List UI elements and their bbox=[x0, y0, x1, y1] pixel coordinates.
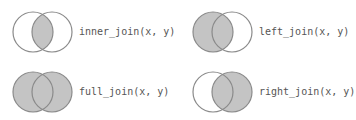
left-join-label: left_join(x, y) bbox=[259, 26, 349, 38]
full-join-diagram: full_join(x, y) bbox=[0, 60, 178, 120]
inner-join-label: inner_join(x, y) bbox=[79, 26, 175, 38]
right-join-label: right_join(x, y) bbox=[259, 86, 355, 98]
venn-full-icon bbox=[0, 60, 80, 120]
venn-right-icon bbox=[178, 60, 258, 120]
right-join-diagram: right_join(x, y) bbox=[178, 60, 356, 120]
left-join-diagram: left_join(x, y) bbox=[178, 0, 356, 60]
inner-join-diagram: inner_join(x, y) bbox=[0, 0, 178, 60]
venn-left-icon bbox=[178, 0, 258, 60]
venn-intersection-icon bbox=[0, 0, 80, 60]
full-join-label: full_join(x, y) bbox=[79, 86, 169, 98]
